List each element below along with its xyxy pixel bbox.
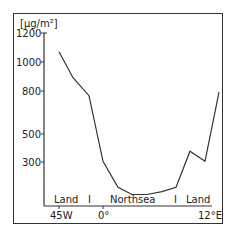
region-land-left: Land — [54, 194, 78, 205]
region-separator-left: I — [88, 194, 91, 205]
y-tick-1200: 1200 — [16, 28, 41, 39]
y-tick-1000: 1000 — [16, 57, 41, 68]
x-tick-45w: 45W — [50, 210, 73, 221]
y-tick-500: 500 — [22, 129, 41, 140]
region-land-right: Land — [186, 194, 210, 205]
data-line — [59, 52, 219, 195]
region-northsea: Northsea — [110, 194, 155, 205]
line-chart: [µg/m²] 1200 1000 800 500 300 Land I Nor… — [0, 0, 243, 239]
x-tick-12e: 12°E — [198, 210, 222, 221]
x-tick-0: 0° — [98, 210, 109, 221]
y-tick-800: 800 — [22, 86, 41, 97]
region-separator-right: I — [174, 194, 177, 205]
y-tick-300: 300 — [22, 157, 41, 168]
